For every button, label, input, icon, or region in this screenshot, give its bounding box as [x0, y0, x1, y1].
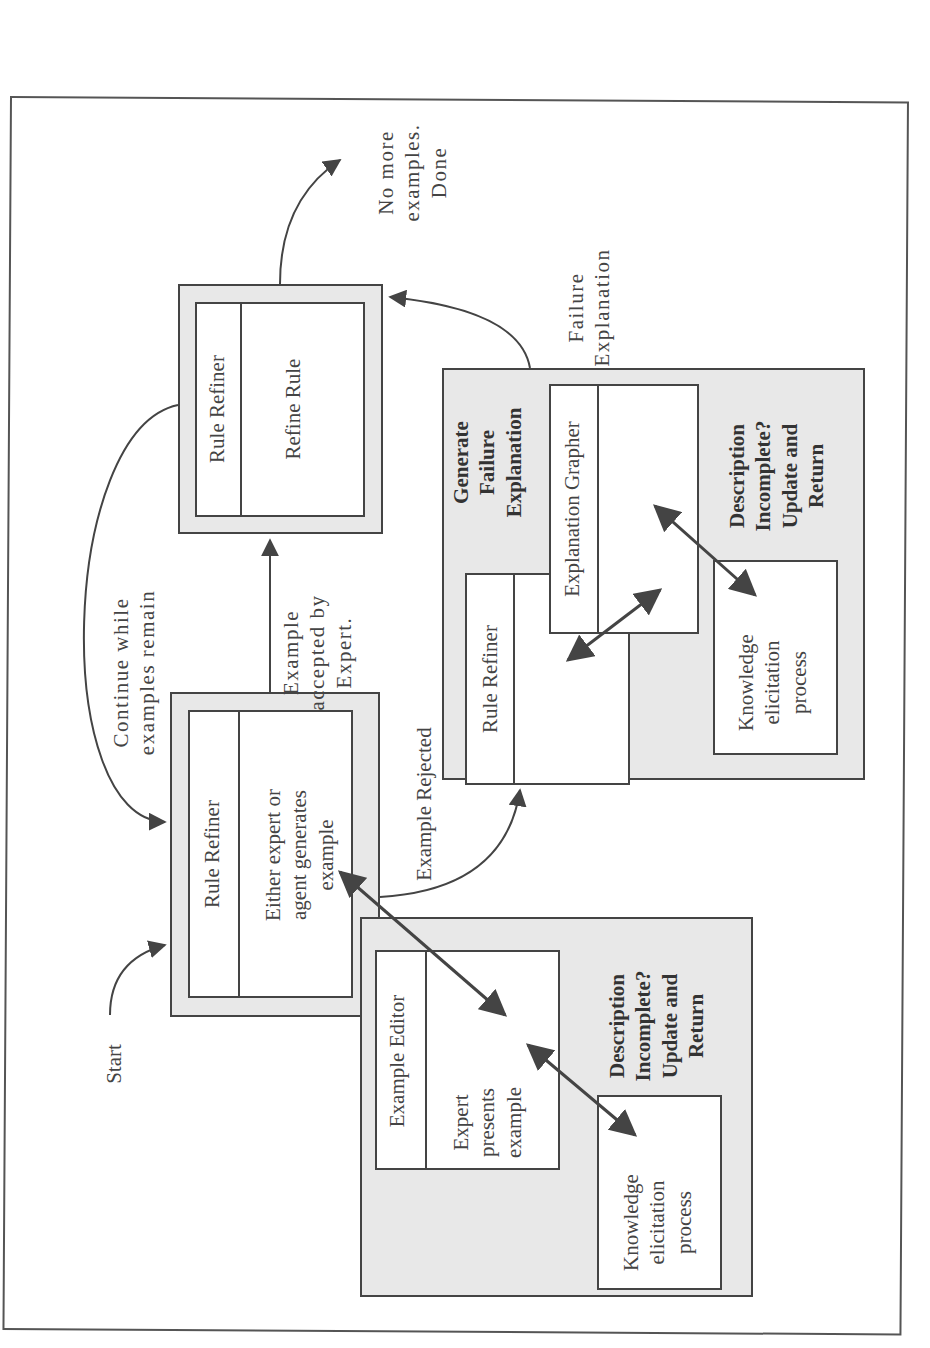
rejected-arrow	[380, 790, 520, 897]
generate-editor-link	[340, 872, 505, 1015]
failure-explanation-arrow	[390, 297, 530, 368]
start-arrow	[110, 945, 165, 1015]
loop-arrow	[84, 405, 178, 822]
editor-knowledge-link	[528, 1045, 635, 1135]
done-arrow	[280, 160, 340, 284]
grapher-knowledge-link	[655, 506, 755, 595]
rule-grapher-link	[568, 590, 660, 660]
connector-arrows	[0, 0, 930, 1348]
